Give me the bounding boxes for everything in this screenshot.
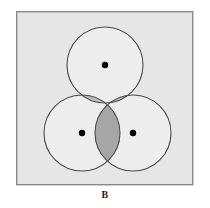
figure-panel-b: B bbox=[0, 0, 210, 208]
dot-right bbox=[130, 130, 136, 136]
figure-caption-label: B bbox=[0, 189, 210, 201]
dot-top bbox=[102, 62, 108, 68]
dot-left bbox=[79, 130, 85, 136]
venn-diagram-svg bbox=[0, 0, 210, 208]
